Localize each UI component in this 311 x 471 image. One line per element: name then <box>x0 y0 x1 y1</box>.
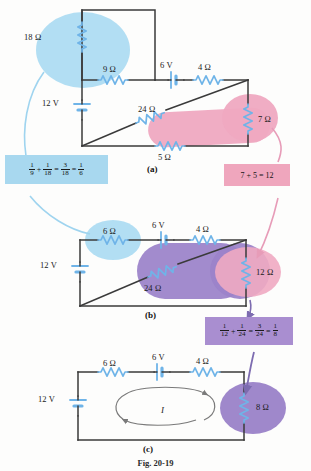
panel-b <box>30 196 281 318</box>
label-12v-c: 12 V <box>38 394 55 404</box>
figure-caption: Fig. 20-19 <box>0 458 311 468</box>
leader-pink-to-12ohm <box>258 198 278 256</box>
panel-a <box>25 10 282 162</box>
callout-purple-parallel-12-24: 1 12 + 1 24 = 3 24 = 1 8 <box>205 317 293 345</box>
resistor-4-ohm-a <box>193 76 223 84</box>
fraction-3-18: 3 18 <box>61 162 70 177</box>
label-12v-b: 12 V <box>40 260 57 270</box>
label-9-ohm: 9 Ω <box>103 64 116 74</box>
current-loop-arrow <box>116 387 215 425</box>
panel-label-a: (a) <box>147 164 158 174</box>
label-4-ohm-a: 4 Ω <box>198 62 211 72</box>
leader-pink <box>272 128 281 162</box>
battery-12v-a <box>74 100 90 120</box>
panel-label-b: (b) <box>145 310 156 320</box>
battery-12v-c <box>70 396 86 416</box>
fraction-1-12: 1 12 <box>220 323 229 338</box>
pink-equation-text: 7 + 5 = 12 <box>240 171 273 180</box>
leader-blue-to-6ohm <box>30 196 90 234</box>
label-4-ohm-b: 4 Ω <box>196 224 209 234</box>
label-5-ohm: 5 Ω <box>158 152 171 162</box>
label-6v-a: 6 V <box>160 60 173 70</box>
fraction-1-24: 1 24 <box>237 323 246 338</box>
leader-blue <box>25 72 44 156</box>
battery-12v-b <box>72 262 88 282</box>
label-8-ohm: 8 Ω <box>256 402 269 412</box>
label-6-ohm-c: 6 Ω <box>103 358 116 368</box>
label-7-ohm: 7 Ω <box>258 114 271 124</box>
fraction-1-8: 1 8 <box>273 323 279 338</box>
label-4-ohm-c: 4 Ω <box>196 356 209 366</box>
label-18-ohm: 18 Ω <box>24 32 41 42</box>
battery-6v-c <box>154 364 170 380</box>
fraction-3-24: 3 24 <box>255 323 264 338</box>
label-6v-b: 6 V <box>152 220 165 230</box>
fraction-1-9: 1 9 <box>29 162 35 177</box>
panel-label-c: (c) <box>143 444 153 454</box>
battery-6v-a <box>168 72 184 88</box>
highlight-purple-8-ohm <box>220 382 286 434</box>
fraction-1-18: 1 18 <box>43 162 52 177</box>
callout-blue-parallel-9-18: 1 9 + 1 18 = 3 18 = 1 6 <box>5 155 108 184</box>
callout-pink-series-7-5: 7 + 5 = 12 <box>224 164 290 186</box>
label-24-ohm-a: 24 Ω <box>138 104 155 114</box>
leader-purple-out <box>248 300 251 318</box>
resistor-4-ohm-c <box>190 368 220 376</box>
resistor-4-ohm-b <box>190 236 220 244</box>
label-6-ohm-b: 6 Ω <box>103 226 116 236</box>
highlight-blue-parallel-9-18 <box>36 12 130 88</box>
resistor-6-ohm-c <box>98 368 128 376</box>
label-24-ohm-b: 24 Ω <box>144 283 161 293</box>
label-12-ohm: 12 Ω <box>256 267 273 277</box>
label-6v-c: 6 V <box>152 352 165 362</box>
label-current-I: I <box>161 405 164 415</box>
label-12v-a: 12 V <box>42 98 59 108</box>
fraction-1-6: 1 6 <box>78 162 84 177</box>
